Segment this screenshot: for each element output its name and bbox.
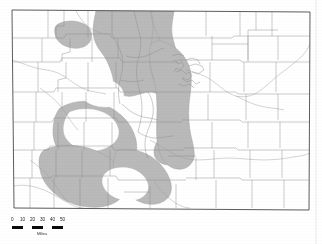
scale-segment-3 xyxy=(52,226,63,229)
colorado-map-svg xyxy=(0,0,322,244)
scale-tick-30: 30 xyxy=(40,217,45,222)
scale-tick-10: 10 xyxy=(20,217,25,222)
scale-segment-2 xyxy=(32,226,43,229)
scale-tick-20: 20 xyxy=(30,217,35,222)
map-figure: 0 10 20 30 40 50 Miles xyxy=(0,0,322,244)
scale-segment-1 xyxy=(12,226,23,229)
scale-bar: 0 10 20 30 40 50 Miles xyxy=(11,217,81,236)
scale-tick-50: 50 xyxy=(60,217,65,222)
scale-tick-labels: 0 10 20 30 40 50 xyxy=(11,217,73,225)
scale-bar-segments xyxy=(11,226,73,230)
scale-caption: Miles xyxy=(11,231,73,236)
scale-tick-40: 40 xyxy=(50,217,55,222)
scale-tick-0: 0 xyxy=(11,217,13,222)
